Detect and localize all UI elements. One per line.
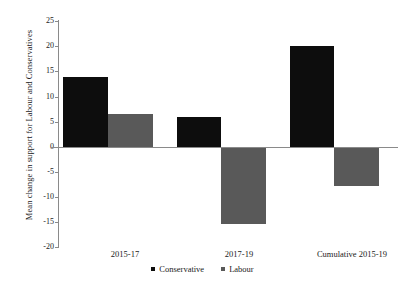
legend-label-labour: Labour (229, 264, 254, 274)
bar-chart: Mean change in support for Labour and Co… (0, 0, 405, 287)
legend-entry-labour: Labour (221, 264, 254, 274)
y-tick-mark (55, 247, 58, 248)
bar-labour-2015-17 (108, 114, 153, 147)
legend-label-conservative: Conservative (159, 264, 204, 274)
category-label-2017-19: 2017-19 (194, 249, 284, 259)
legend-swatch-conservative-icon (151, 267, 155, 271)
y-tick-label-5: 5 (28, 118, 54, 126)
x-axis-category-labels: 2015-17 2017-19 Cumulative 2015-19 (58, 249, 398, 265)
chart-legend: Conservative Labour (0, 264, 405, 274)
y-tick-mark (55, 46, 58, 47)
category-label-cumulative-2015-19: Cumulative 2015-19 (292, 249, 405, 259)
y-tick-mark (55, 197, 58, 198)
y-tick-label-20: 20 (28, 42, 54, 50)
y-tick-mark (55, 97, 58, 98)
y-tick-mark (55, 122, 58, 123)
y-tick-label-10: 10 (28, 93, 54, 101)
bar-conservative-cumulative-2015-19 (290, 46, 334, 147)
y-tick-mark (55, 21, 58, 22)
y-tick-mark (55, 172, 58, 173)
y-tick-label-neg5: -5 (28, 168, 54, 176)
bar-labour-cumulative-2015-19 (334, 148, 379, 186)
y-tick-mark (55, 71, 58, 72)
bar-conservative-2015-17 (63, 77, 108, 147)
y-tick-label-neg15: -15 (28, 218, 54, 226)
zero-baseline (51, 147, 398, 148)
y-tick-label-15: 15 (28, 67, 54, 75)
y-tick-mark (55, 222, 58, 223)
legend-entry-conservative: Conservative (151, 264, 204, 274)
y-tick-label-neg20: -20 (28, 243, 54, 251)
bar-labour-2017-19 (221, 148, 266, 224)
legend-swatch-labour-icon (221, 267, 225, 271)
y-tick-label-25: 25 (28, 17, 54, 25)
bar-conservative-2017-19 (177, 117, 221, 147)
y-axis-line (58, 20, 59, 248)
category-label-2015-17: 2015-17 (80, 249, 170, 259)
y-axis-tick-labels: 25 20 15 10 5 0 -5 -10 -15 -20 (24, 0, 54, 287)
y-tick-label-neg10: -10 (28, 193, 54, 201)
